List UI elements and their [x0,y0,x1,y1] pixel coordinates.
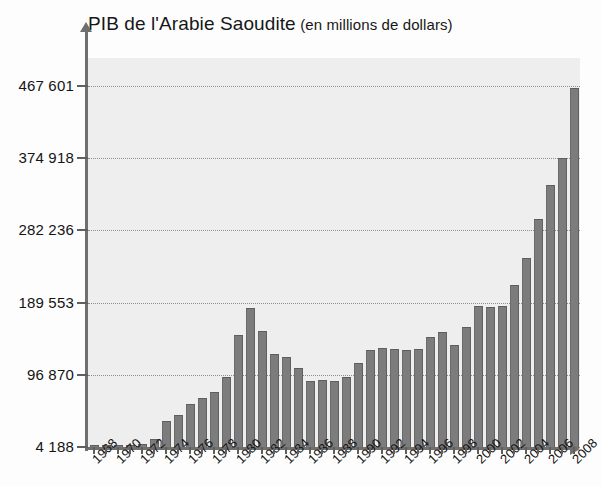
bar [498,306,507,448]
bar [546,185,555,448]
y-axis-tick-label: 189 553 [0,294,74,311]
bar [282,357,291,448]
x-axis-tick [489,447,491,454]
x-axis-tick [513,447,515,454]
x-axis-tick [441,447,443,454]
bar [510,285,519,448]
y-axis-tick-label: 374 918 [0,149,74,166]
bar [534,219,543,448]
y-axis-tick [77,302,88,304]
bar [378,348,387,448]
bars-layer [88,58,580,448]
y-axis-tick-label: 4 188 [0,438,74,455]
bar [306,381,315,448]
x-axis-tick [177,447,179,454]
bar [354,363,363,448]
bar [450,345,459,448]
x-axis-tick [105,447,107,454]
bar [426,337,435,448]
y-axis-arrow-icon [80,22,92,32]
y-axis-tick [77,157,88,159]
chart-figure: PIB de l'Arabie Saoudite (en millions de… [0,0,602,486]
bar [402,350,411,448]
y-axis-tick [77,374,88,376]
x-axis-tick [249,447,251,454]
chart-title-main: PIB de l'Arabie Saoudite [88,13,296,34]
bar [366,350,375,448]
y-axis-line [85,30,88,451]
x-axis-tick [465,447,467,454]
chart-title-subtitle: (en millions de dollars) [300,16,452,33]
y-axis-tick [77,229,88,231]
y-axis-tick-label: 282 236 [0,221,74,238]
bar [414,349,423,448]
x-axis-tick [129,447,131,454]
bar [558,158,567,448]
x-axis-tick [369,447,371,454]
x-axis-tick [273,447,275,454]
y-axis-tick [77,85,88,87]
bar [330,381,339,448]
bar [462,327,471,448]
x-axis-tick [417,447,419,454]
y-axis-tick-label: 96 870 [0,366,74,383]
x-axis-tick [153,447,155,454]
x-axis-tick [537,447,539,454]
x-axis-tick [225,447,227,454]
bar [258,331,267,448]
x-axis-tick [321,447,323,454]
y-axis-tick-label: 467 601 [0,77,74,94]
x-axis-tick [345,447,347,454]
bar [246,308,255,448]
x-axis-tick [393,447,395,454]
bar [234,335,243,448]
y-axis-tick [77,446,88,448]
x-axis-tick [561,447,563,454]
bar [522,258,531,448]
bar [570,88,579,448]
bar [438,332,447,448]
chart-title: PIB de l'Arabie Saoudite (en millions de… [88,14,453,33]
plot-area [88,58,580,448]
bar [474,306,483,448]
bar [390,349,399,448]
x-axis-tick [201,447,203,454]
x-axis-tick [297,447,299,454]
bar [486,307,495,448]
